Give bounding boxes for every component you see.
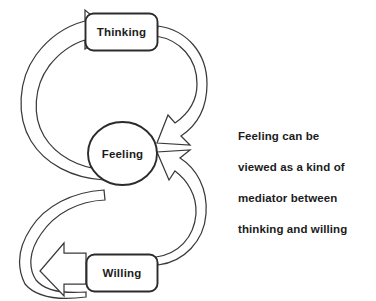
node-thinking-label: Thinking [97,26,147,38]
caption-line-3: mediator between [238,191,374,207]
caption-line-1: Feeling can be [238,129,374,145]
caption-text: Feeling can be viewed as a kind of media… [238,113,374,253]
node-feeling-label: Feeling [102,148,144,160]
node-feeling[interactable]: Feeling [88,122,157,185]
caption-line-2: viewed as a kind of [238,160,374,176]
edge-thinking-to-feeling [156,26,207,145]
node-willing-label: Willing [103,267,142,279]
caption-line-4: thinking and willing [238,222,374,238]
edge-feeling-to-willing [156,150,206,265]
node-thinking[interactable]: Thinking [86,14,158,51]
diagram-canvas: Thinking Feeling Willing Feeling can be … [0,0,376,301]
node-willing[interactable]: Willing [87,255,158,292]
